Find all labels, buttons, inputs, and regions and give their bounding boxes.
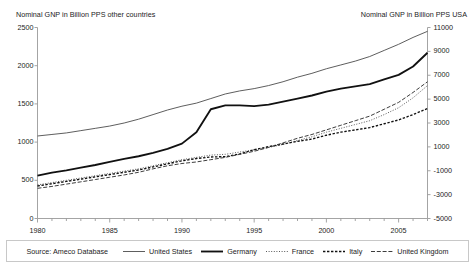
- series-line-united-kingdom: [38, 82, 428, 189]
- chart-figure: Nominal GNP in Billion PPS other countri…: [0, 0, 475, 270]
- legend-swatch-solid-thick: [201, 248, 223, 255]
- legend-label: United Kingdom: [397, 247, 448, 256]
- legend-swatch-solid-thin: [123, 248, 145, 255]
- legend-item-france[interactable]: France: [266, 247, 314, 256]
- legend-label: Germany: [227, 247, 257, 256]
- legend-label: France: [292, 247, 314, 256]
- legend: Source: Ameco Database United StatesGerm…: [6, 240, 469, 262]
- legend-swatch-dotted: [266, 248, 288, 255]
- legend-label: United States: [149, 247, 192, 256]
- source-label: Source: Ameco Database: [27, 247, 109, 256]
- legend-item-germany[interactable]: Germany: [201, 247, 257, 256]
- plot-area: [0, 0, 475, 270]
- series-line-italy: [38, 108, 428, 186]
- legend-swatch-dash-dot: [323, 248, 345, 255]
- series-line-germany: [38, 53, 428, 176]
- legend-item-united-states[interactable]: United States: [123, 247, 192, 256]
- legend-item-united-kingdom[interactable]: United Kingdom: [371, 247, 448, 256]
- series-line-france: [38, 86, 428, 185]
- legend-label: Italy: [349, 247, 362, 256]
- legend-swatch-dashed: [371, 248, 393, 255]
- legend-item-italy[interactable]: Italy: [323, 247, 362, 256]
